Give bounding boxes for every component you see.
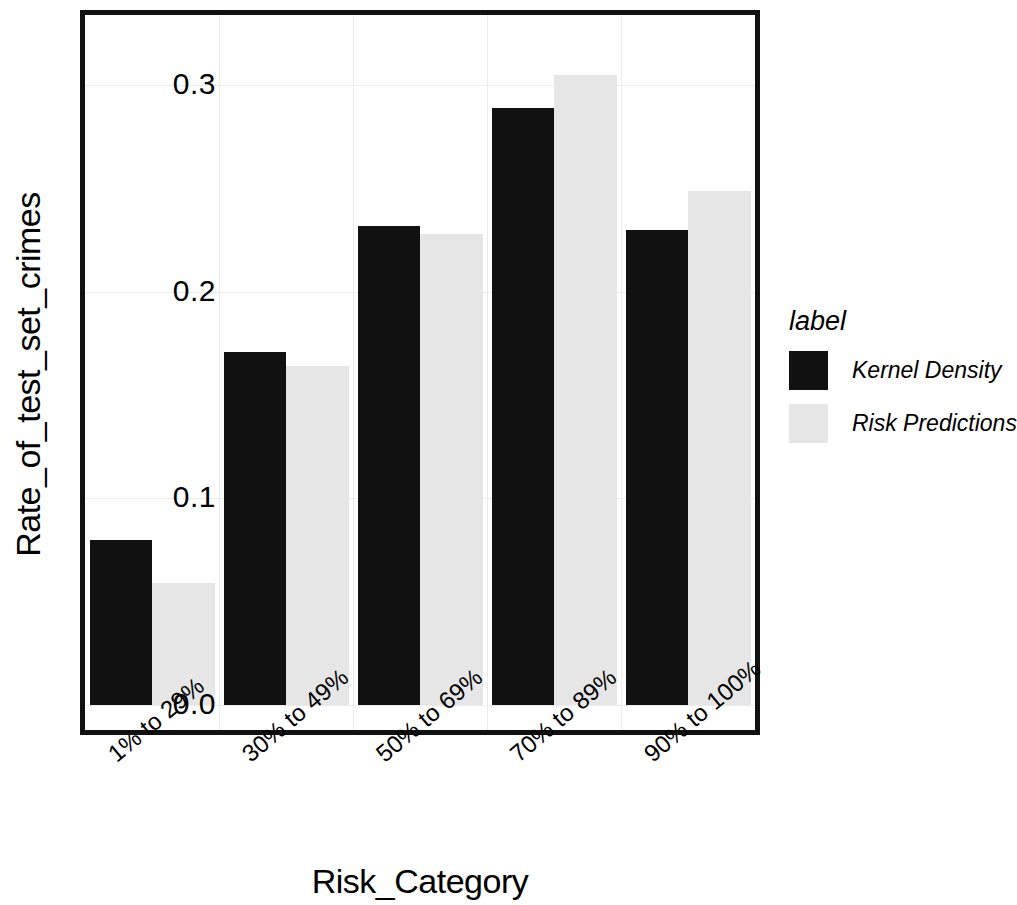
- bar: [554, 75, 617, 705]
- y-axis-title: Rate_of_test_set_crimes: [9, 55, 48, 695]
- bar: [626, 230, 689, 705]
- y-axis-tick-label: 0.3: [173, 69, 216, 99]
- bar: [286, 366, 349, 705]
- bar: [224, 352, 287, 705]
- x-axis-title: Risk_Category: [80, 862, 760, 901]
- plot-area: [80, 10, 760, 735]
- legend-entry[interactable]: Risk Predictions: [789, 404, 999, 443]
- y-axis-tick-label: 0.2: [173, 276, 216, 306]
- gridline-vertical: [219, 15, 220, 730]
- bar: [358, 226, 421, 705]
- legend: label Kernel DensityRisk Predictions: [789, 306, 999, 457]
- legend-title: label: [789, 306, 999, 337]
- legend-swatch-icon: [789, 404, 828, 443]
- bar: [420, 234, 483, 705]
- legend-swatch-icon: [789, 351, 828, 390]
- legend-entry[interactable]: Kernel Density: [789, 351, 999, 390]
- gridline-vertical: [621, 15, 622, 730]
- legend-entries: Kernel DensityRisk Predictions: [789, 351, 999, 443]
- legend-entry-label: Kernel Density: [852, 357, 1002, 384]
- bar: [688, 191, 751, 705]
- plot-inner: [85, 15, 755, 730]
- legend-entry-label: Risk Predictions: [852, 410, 1017, 437]
- gridline-vertical: [353, 15, 354, 730]
- bar: [492, 108, 555, 705]
- gridline-vertical: [487, 15, 488, 730]
- bar: [90, 540, 153, 705]
- y-axis-tick-label: 0.1: [173, 482, 216, 512]
